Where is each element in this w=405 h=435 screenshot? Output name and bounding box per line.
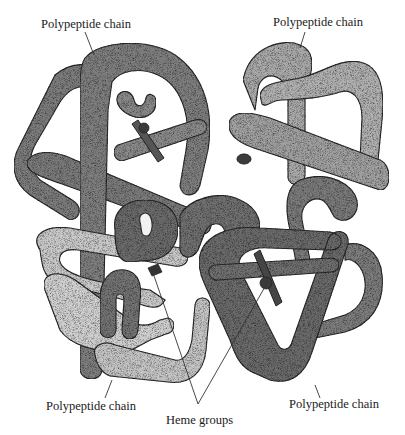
label-polypeptide-chain-top-right: Polypeptide chain — [273, 15, 363, 29]
label-polypeptide-chain-bottom-right: Polypeptide chain — [289, 397, 379, 411]
polypeptide-chain-bottom-right — [199, 227, 348, 381]
heme-group-top-right — [237, 154, 251, 164]
hemoglobin-diagram — [0, 0, 405, 435]
polypeptide-chain-top-right — [229, 43, 389, 190]
leader-top-left — [85, 32, 94, 55]
heme-group-center — [148, 264, 162, 276]
label-polypeptide-chain-bottom-left: Polypeptide chain — [46, 399, 136, 413]
label-polypeptide-chain-top-left: Polypeptide chain — [41, 17, 131, 31]
heme-group-bottom-right — [254, 250, 282, 306]
leader-bottom-left — [105, 380, 112, 398]
label-heme-groups: Heme groups — [166, 413, 233, 427]
